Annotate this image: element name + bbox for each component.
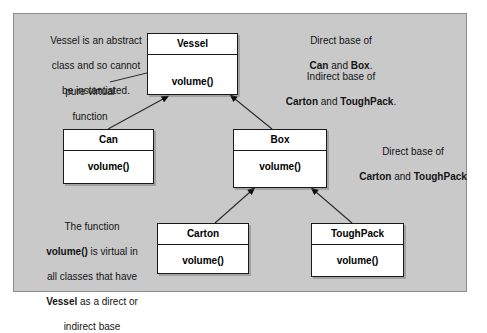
note-pure-virtual-line2: function	[72, 111, 107, 122]
note-virtual-class-vessel: Vessel	[46, 296, 77, 307]
note-direct-base2-line1: Direct base of	[382, 146, 444, 157]
note-virtual-line3: all classes that have	[47, 271, 137, 282]
class-name-carton: Carton	[158, 224, 248, 245]
class-name-toughpack: ToughPack	[312, 224, 403, 245]
note-indirect-base-conjunction: and	[318, 96, 340, 107]
note-direct-base-of-carton-toughpack: Direct base of Carton and ToughPack	[346, 133, 480, 183]
class-members-can: volume()	[64, 151, 153, 183]
note-direct-base2-conjunction: and	[391, 171, 413, 182]
note-direct-base2-class-carton: Carton	[359, 171, 391, 182]
class-member-toughpack-volume: volume()	[337, 255, 379, 266]
note-virtual-line1: The function	[64, 221, 119, 232]
note-indirect-base-of-carton-toughpack: Indirect base of Carton and ToughPack.	[250, 58, 432, 108]
class-members-toughpack: volume()	[312, 245, 403, 276]
note-indirect-base-class-toughpack: ToughPack	[340, 96, 393, 107]
class-box-box[interactable]: Box volume()	[233, 129, 327, 188]
note-indirect-base-period: .	[393, 96, 396, 107]
note-virtual-line5: indirect base	[64, 321, 121, 332]
class-member-vessel-volume: volume()	[172, 76, 214, 87]
class-box-can[interactable]: Can volume()	[63, 129, 154, 184]
class-member-box-volume: volume()	[259, 161, 301, 172]
note-direct-base2-class-toughpack: ToughPack	[414, 171, 467, 182]
class-members-box: volume()	[234, 151, 326, 187]
note-volume-virtual-in-all-classes: The function volume() is virtual in all …	[22, 208, 162, 333]
note-indirect-base-line1: Indirect base of	[307, 71, 375, 82]
class-name-box: Box	[234, 130, 326, 151]
note-pure-virtual-line1: pure virtual	[65, 86, 114, 97]
class-name-can: Can	[64, 130, 153, 151]
note-virtual-line4-rest: as a direct or	[77, 296, 138, 307]
class-box-toughpack[interactable]: ToughPack volume()	[311, 223, 404, 277]
class-member-carton-volume: volume()	[182, 255, 224, 266]
class-members-carton: volume()	[158, 245, 248, 273]
class-box-carton[interactable]: Carton volume()	[157, 223, 249, 274]
class-member-can-volume: volume()	[88, 161, 130, 172]
note-pure-virtual-function: pure virtual function	[38, 73, 142, 123]
note-virtual-line2-rest: is virtual in	[88, 246, 138, 257]
note-abstract-line2: class and so cannot	[52, 60, 140, 71]
note-indirect-base-class-carton: Carton	[286, 96, 318, 107]
note-virtual-member-volume: volume()	[46, 246, 88, 257]
note-direct-base-line1: Direct base of	[310, 35, 372, 46]
note-abstract-line1: Vessel is an abstract	[50, 35, 142, 46]
